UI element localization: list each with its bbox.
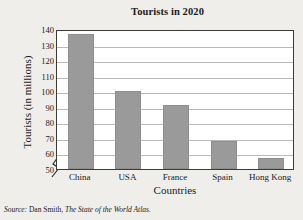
bar-france: [163, 105, 189, 169]
y-tick-label: 110: [32, 73, 54, 82]
y-tick-label: 90: [32, 104, 54, 113]
source-prefix: Source:: [4, 205, 27, 214]
y-tick-label: 70: [32, 135, 54, 144]
source-work: The State of the World Atlas.: [65, 205, 151, 214]
source-author: Dan Smith,: [29, 205, 63, 214]
y-tick-label: 120: [32, 57, 54, 66]
bar-usa: [115, 91, 141, 169]
x-axis-title: Countries: [56, 184, 294, 196]
bar-spain: [211, 141, 237, 169]
y-tick-label: 140: [32, 26, 54, 35]
chart-figure: Tourists in 2020 Tourists (in millions) …: [0, 0, 303, 220]
y-tick-label: 80: [32, 119, 54, 128]
bar-hong-kong: [258, 158, 284, 169]
chart-title: Tourists in 2020: [40, 6, 295, 17]
source-caption: Source: Dan Smith, The State of the Worl…: [4, 205, 151, 214]
y-axis-tick-labels: 1401301201101009080706050: [28, 30, 54, 170]
x-tick-label-spain: Spain: [199, 172, 247, 182]
plot-area: [56, 30, 294, 170]
x-tick-label-usa: USA: [104, 172, 152, 182]
y-tick-label: 130: [32, 42, 54, 51]
bar-china: [68, 34, 94, 169]
x-tick-label-china: China: [56, 172, 104, 182]
x-tick-label-hong-kong: Hong Kong: [246, 172, 294, 182]
y-tick-label: 100: [32, 88, 54, 97]
x-tick-label-france: France: [151, 172, 199, 182]
